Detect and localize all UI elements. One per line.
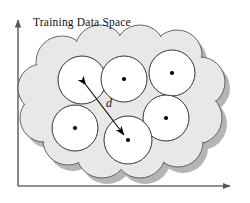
cluster-top-left (58, 56, 106, 104)
cluster-center-dot (122, 77, 126, 81)
figure-training-data-space: Training Data Space d (0, 0, 250, 203)
cluster-top-right (149, 50, 195, 96)
cluster-center-dot (73, 126, 77, 130)
cluster-center-dot (170, 71, 174, 75)
cluster-bottom-left (52, 105, 98, 151)
page-title: Training Data Space (33, 17, 131, 29)
diagram-canvas (0, 0, 250, 203)
cluster-center-dot (164, 116, 168, 120)
distance-label: d (106, 97, 112, 109)
cluster-center-dot (126, 138, 130, 142)
cluster-bottom-middle (104, 116, 152, 164)
